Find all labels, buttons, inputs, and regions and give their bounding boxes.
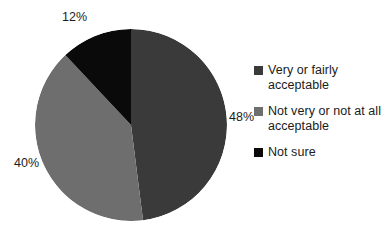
legend-label-not-sure: Not sure xyxy=(268,145,316,160)
slice-label-not-sure: 12% xyxy=(62,10,87,24)
slice-label-very-or-fairly-acceptable: 48% xyxy=(229,110,254,124)
legend-item-very-or-fairly-acceptable: Very or fairly acceptable xyxy=(254,63,390,93)
legend-swatch-not-sure xyxy=(254,148,263,157)
legend-item-not-very-or-not-at-all-acceptable: Not very or not at all acceptable xyxy=(254,104,390,134)
pie-graphic xyxy=(35,29,227,221)
chart-title-remnant xyxy=(150,0,380,5)
pie-slices-svg xyxy=(35,29,227,221)
pie-slice-0 xyxy=(131,29,227,220)
pie-plot-area xyxy=(35,29,227,221)
legend-label-not-very-or-not-at-all-acceptable: Not very or not at all acceptable xyxy=(268,104,390,134)
legend-swatch-not-very-or-not-at-all-acceptable xyxy=(254,107,263,116)
slice-label-not-very-or-not-at-all-acceptable: 40% xyxy=(14,156,39,170)
chart-legend: Very or fairly acceptable Not very or no… xyxy=(254,63,390,160)
pie-chart-figure: 12% 40% 48% Very or fairly acceptable No… xyxy=(0,0,390,229)
legend-swatch-very-or-fairly-acceptable xyxy=(254,66,263,75)
legend-label-very-or-fairly-acceptable: Very or fairly acceptable xyxy=(268,63,390,93)
legend-item-not-sure: Not sure xyxy=(254,145,390,160)
